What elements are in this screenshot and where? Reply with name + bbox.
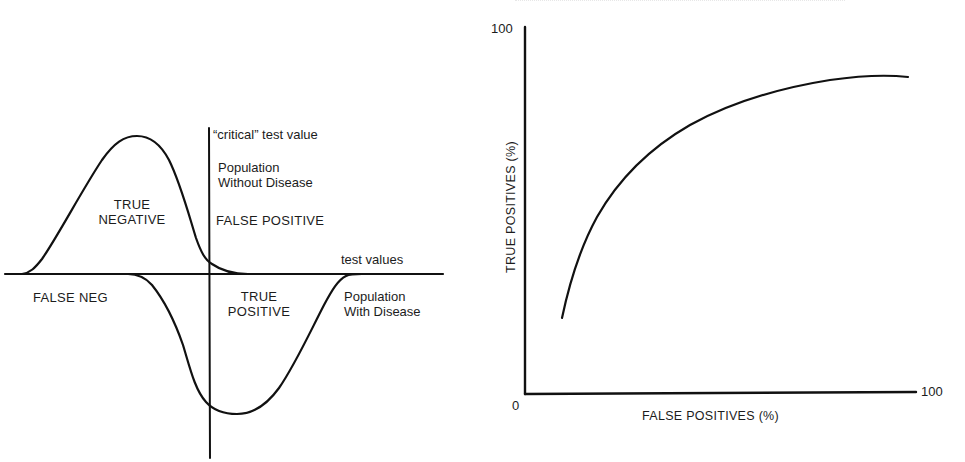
true-negative-label: TRUE NEGATIVE	[92, 197, 172, 227]
true-positive-label: TRUE POSITIVE	[222, 289, 296, 319]
population-without-disease-label: Population Without Disease	[218, 160, 313, 190]
critical-value-line	[209, 128, 210, 458]
population-with-disease-line-1: Population	[344, 289, 421, 304]
x-axis-label: FALSE POSITIVES (%)	[642, 409, 779, 424]
true-positive-line-1: TRUE	[222, 289, 296, 304]
population-without-disease-line-1: Population	[218, 160, 313, 175]
true-positive-line-2: POSITIVE	[222, 304, 296, 319]
population-without-disease-line-2: Without Disease	[218, 175, 313, 190]
roc-curve	[562, 76, 908, 318]
false-negative-label: FALSE NEG	[33, 290, 108, 305]
figure-drawing	[0, 0, 965, 462]
false-positives-axis	[525, 392, 916, 394]
true-negative-line-2: NEGATIVE	[92, 212, 172, 227]
false-positive-label: FALSE POSITIVE	[216, 213, 324, 228]
y-axis-max-label: 100	[491, 21, 513, 36]
figure: “critical” test value Population Without…	[0, 0, 965, 462]
x-axis-max-label: 100	[921, 384, 943, 399]
test-values-label: test values	[341, 252, 403, 267]
population-with-disease-label: Population With Disease	[344, 289, 421, 319]
true-negative-line-1: TRUE	[92, 197, 172, 212]
y-axis-label: TRUE POSITIVES (%)	[504, 137, 520, 277]
population-with-disease-line-2: With Disease	[344, 304, 421, 319]
origin-label: 0	[512, 398, 519, 413]
critical-test-value-label: “critical” test value	[213, 127, 318, 142]
